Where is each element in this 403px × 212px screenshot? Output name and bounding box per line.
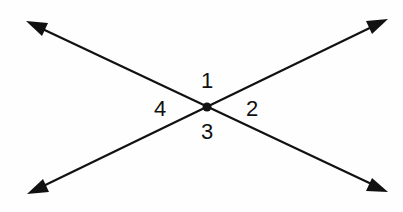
angle-label-1: 1 — [201, 70, 213, 92]
arrowhead-bottom-right-icon — [366, 178, 388, 192]
angle-label-4: 4 — [154, 98, 166, 120]
arrowhead-top-left-icon — [26, 21, 48, 36]
lines-canvas — [0, 0, 403, 212]
angle-label-3: 3 — [201, 121, 213, 143]
intersection-point — [203, 103, 212, 112]
intersecting-lines-diagram: 1 2 3 4 — [0, 0, 403, 212]
arrowhead-top-right-icon — [366, 19, 388, 34]
angle-label-2: 2 — [246, 98, 258, 120]
arrowhead-bottom-left-icon — [27, 179, 49, 194]
